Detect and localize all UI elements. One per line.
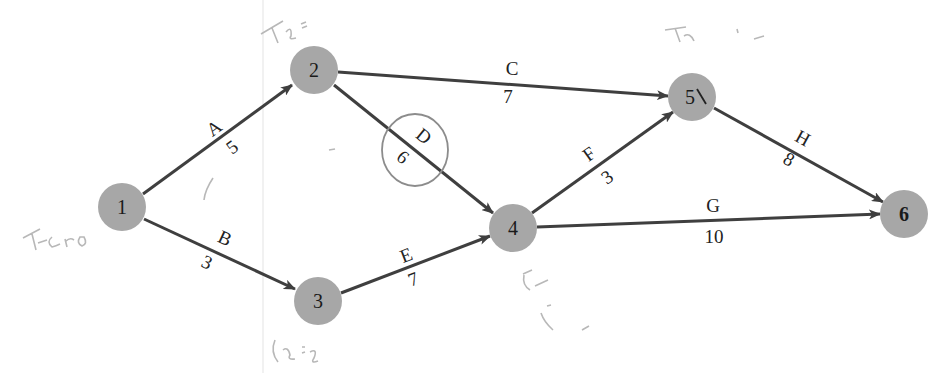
- edge-h-activity: H: [792, 125, 814, 150]
- edge-f-arrow: [532, 112, 673, 213]
- network-diagram: A 5 B 3 C 7 D 6 E 7 F 3 G 10 H 8 1 2 3: [0, 0, 945, 373]
- edge-d-arrow: [334, 85, 493, 213]
- edge-d-activity: D: [412, 124, 436, 149]
- edge-e-duration: 7: [405, 267, 421, 290]
- edge-f-duration: 3: [597, 166, 617, 189]
- annotation-near-node-4: [523, 270, 589, 330]
- edge-a-arrow: [143, 85, 292, 194]
- edge-b-duration: 3: [198, 250, 215, 273]
- annotation-near-node-1: [23, 229, 86, 250]
- edge-h-arrow: [714, 108, 883, 202]
- node-1-label: 1: [117, 196, 127, 218]
- edge-g-duration: 10: [705, 226, 724, 247]
- nodes: 1 2 3 4 5 6: [98, 46, 928, 325]
- node-5-label: 5: [685, 86, 695, 108]
- node-4-label: 4: [508, 217, 518, 239]
- node-6: 6: [880, 190, 928, 238]
- edge-a-duration: 5: [222, 136, 242, 159]
- node-3-label: 3: [313, 290, 323, 312]
- annotation-near-node-3: [273, 340, 318, 362]
- node-5: 5: [668, 73, 716, 121]
- pencil-faint-stroke: [204, 178, 213, 200]
- edge-b-activity: B: [215, 226, 235, 250]
- edge-labels: A 5 B 3 C 7 D 6 E 7 F 3 G 10 H 8: [198, 58, 814, 291]
- node-3: 3: [294, 277, 342, 325]
- edge-e-activity: E: [397, 243, 415, 267]
- pencil-dash-mark: [329, 149, 335, 150]
- annotation-near-node-2: [261, 21, 307, 43]
- node-2: 2: [290, 46, 338, 94]
- node-2-label: 2: [309, 59, 319, 81]
- edge-c-duration: 7: [503, 86, 513, 107]
- edge-f-activity: F: [579, 142, 600, 165]
- node-1: 1: [98, 183, 146, 231]
- edge-h-duration: 8: [780, 148, 798, 171]
- edge-b-arrow: [144, 219, 295, 289]
- node-4: 4: [489, 204, 537, 252]
- annotation-near-node-5: [665, 27, 764, 42]
- edges: [143, 72, 883, 293]
- edge-c-activity: C: [506, 58, 519, 79]
- node-6-label: 6: [899, 203, 909, 225]
- edge-g-activity: G: [706, 195, 720, 216]
- edge-d-duration: 6: [393, 146, 414, 168]
